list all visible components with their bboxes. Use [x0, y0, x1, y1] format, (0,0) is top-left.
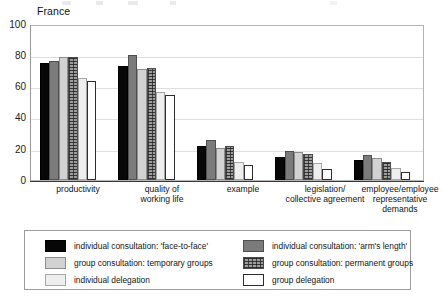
legend-label-0: individual consultation: 'face-to-face': [74, 242, 208, 251]
bar-individual-arms-length-2[interactable]: [206, 140, 215, 180]
bar-group-temporary-1[interactable]: [137, 69, 146, 180]
bar-group-permanent-4[interactable]: [382, 162, 391, 180]
legend-label-1: individual consultation: 'arm's length': [272, 242, 407, 251]
swatch-individual-arms-length: [243, 240, 264, 252]
bar-individual-face-to-face-4[interactable]: [354, 160, 363, 180]
bar-group-delegation-2[interactable]: [244, 165, 253, 180]
bar-individual-face-to-face-1[interactable]: [118, 66, 127, 180]
bar-individual-arms-length-1[interactable]: [128, 55, 137, 180]
bar-group-4: [354, 26, 410, 180]
legend-label-4: individual delegation: [74, 276, 150, 285]
bar-individual-delegation-3[interactable]: [313, 163, 322, 180]
swatch-group-permanent: [243, 257, 264, 269]
bar-individual-delegation-1[interactable]: [156, 92, 165, 180]
swatch-individual-face-to-face: [45, 240, 66, 252]
bar-individual-delegation-2[interactable]: [234, 162, 243, 180]
bar-group-permanent-3[interactable]: [303, 154, 312, 180]
bar-individual-delegation-4[interactable]: [391, 168, 400, 180]
bar-group-delegation-1[interactable]: [165, 95, 174, 180]
chart-plot-area: [30, 25, 424, 181]
chart-legend: individual consultation: 'face-to-face'i…: [24, 230, 411, 290]
bar-individual-arms-length-4[interactable]: [363, 155, 372, 180]
bar-group-2: [197, 26, 253, 180]
legend-item-3[interactable]: group consultation: permanent groups: [243, 257, 413, 269]
page-title: France: [37, 5, 70, 17]
bar-individual-face-to-face-0[interactable]: [40, 63, 49, 180]
y-tick-100: 100: [2, 20, 26, 30]
legend-label-3: group consultation: permanent groups: [272, 259, 413, 268]
bar-group-temporary-4[interactable]: [372, 158, 381, 180]
legend-item-4[interactable]: individual delegation: [45, 274, 150, 286]
legend-item-1[interactable]: individual consultation: 'arm's length': [243, 240, 407, 252]
y-tick-60: 60: [2, 82, 26, 92]
y-axis-line: [30, 25, 31, 182]
bar-group-temporary-3[interactable]: [294, 152, 303, 180]
bar-group-temporary-0[interactable]: [59, 57, 68, 180]
legend-item-0[interactable]: individual consultation: 'face-to-face': [45, 240, 208, 252]
legend-label-5: group delegation: [272, 276, 334, 285]
swatch-group-temporary: [45, 257, 66, 269]
bar-group-1: [118, 26, 174, 180]
bar-group-permanent-0[interactable]: [68, 57, 77, 180]
swatch-individual-delegation: [45, 274, 66, 286]
y-axis-labels: 100 80 60 40 20 0: [0, 0, 26, 296]
x-label-quality-working-life: quality ofworking life: [114, 184, 210, 204]
y-tick-0: 0: [2, 176, 26, 186]
bar-individual-face-to-face-3[interactable]: [275, 157, 284, 180]
bar-group-permanent-1[interactable]: [147, 68, 156, 180]
bar-group-0: [40, 26, 96, 180]
legend-item-2[interactable]: group consultation: temporary groups: [45, 257, 213, 269]
x-axis-labels: productivity quality ofworking life exam…: [30, 184, 424, 226]
bar-individual-arms-length-0[interactable]: [49, 61, 58, 180]
y-tick-80: 80: [2, 51, 26, 61]
bar-group-permanent-2[interactable]: [225, 146, 234, 180]
y-tick-20: 20: [2, 145, 26, 155]
legend-label-2: group consultation: temporary groups: [74, 259, 213, 268]
bar-group-delegation-3[interactable]: [322, 169, 331, 180]
bar-individual-arms-length-3[interactable]: [285, 151, 294, 180]
bar-group-delegation-4[interactable]: [401, 172, 410, 180]
bar-individual-face-to-face-2[interactable]: [197, 146, 206, 180]
x-axis-line: [30, 181, 424, 182]
x-label-productivity: productivity: [30, 184, 126, 194]
y-tick-40: 40: [2, 113, 26, 123]
x-label-employee-demands: employee/employeerepresentativedemands: [348, 184, 443, 215]
bar-group-delegation-0[interactable]: [87, 81, 96, 180]
legend-item-5[interactable]: group delegation: [243, 274, 334, 286]
bar-group-3: [275, 26, 331, 180]
bar-individual-delegation-0[interactable]: [78, 78, 87, 180]
swatch-group-delegation: [243, 274, 264, 286]
bar-group-temporary-2[interactable]: [216, 148, 225, 180]
